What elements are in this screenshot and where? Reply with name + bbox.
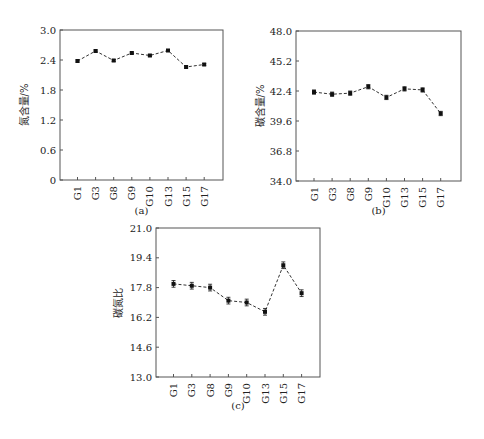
data-point-marker [226,299,230,303]
plot-frame [60,30,223,180]
x-tick-label: G3 [186,383,197,397]
y-tick-label: 45.2 [270,56,292,67]
x-tick-label: G1 [168,383,179,397]
x-tick-label: G8 [345,187,356,201]
x-tick-label: G15 [181,186,192,207]
data-point-marker [148,54,152,58]
data-point-marker [348,91,352,95]
x-tick-label: G9 [223,383,234,397]
y-axis-label: 碳氮比 [112,288,124,318]
data-point-marker [312,90,316,94]
data-point-marker [403,87,407,91]
y-tick-label: 0.6 [40,145,56,156]
data-point-marker [184,65,188,69]
chart-a: 00.61.21.82.43.0氮含量/%G1G3G8G9G10G13G15G1… [18,25,223,217]
chart-caption: (c) [231,400,245,411]
y-tick-label: 0 [50,175,56,186]
x-tick-label: G8 [205,383,216,397]
y-axis-label: 碳含量/% [254,85,266,128]
y-tick-label: 3.0 [40,25,56,36]
data-point-marker [172,282,176,286]
data-point-marker [166,49,170,53]
y-tick-label: 2.4 [40,55,56,66]
y-tick-label: 19.4 [130,252,152,263]
y-tick-label: 42.4 [270,86,292,97]
x-tick-label: G13 [163,186,174,207]
data-point-marker [300,291,304,295]
x-tick-label: G8 [108,186,119,200]
plot-frame [156,228,320,377]
x-tick-label: G17 [296,383,307,404]
plot-frame [296,31,461,181]
x-tick-label: G15 [417,187,428,208]
x-tick-label: G17 [435,187,446,208]
y-tick-label: 17.8 [130,282,152,293]
y-tick-label: 34.0 [270,176,292,187]
data-point-marker [94,49,98,53]
figure: 00.61.21.82.43.0氮含量/%G1G3G8G9G10G13G15G1… [0,0,484,439]
y-tick-label: 36.8 [270,146,292,157]
y-tick-label: 48.0 [270,26,292,37]
data-point-marker [330,92,334,96]
data-point-marker [202,63,206,67]
chart-b: 34.036.839.642.445.248.0碳含量/%G1G3G8G9G10… [254,26,461,217]
y-tick-label: 1.2 [40,115,56,126]
y-tick-label: 14.6 [130,342,152,353]
x-tick-label: G1 [72,186,83,200]
x-tick-label: G3 [327,187,338,201]
data-point-marker [421,88,425,92]
data-point-marker [439,112,443,116]
data-point-marker [263,310,267,314]
chart-caption: (b) [371,205,385,216]
x-tick-label: G1 [309,187,320,201]
x-tick-label: G13 [399,187,410,208]
y-tick-label: 13.0 [130,372,152,383]
data-point-marker [281,263,285,267]
chart-c: 13.014.616.217.819.421.0碳氮比G1G3G8G9G10G1… [112,223,320,412]
y-tick-label: 21.0 [130,223,152,234]
data-point-marker [190,284,194,288]
data-point-marker [76,59,80,63]
x-tick-label: G10 [144,186,155,207]
data-point-marker [366,85,370,89]
x-tick-label: G9 [363,187,374,201]
y-axis-label: 氮含量/% [18,84,30,127]
y-tick-label: 16.2 [130,312,152,323]
x-tick-label: G17 [199,186,210,207]
data-point-marker [384,95,388,99]
data-line [174,265,302,312]
data-point-marker [208,286,212,290]
x-tick-label: G3 [90,186,101,200]
data-point-marker [130,51,134,55]
x-tick-label: G9 [126,186,137,200]
chart-caption: (a) [135,205,149,216]
y-tick-label: 39.6 [270,116,292,127]
data-point-marker [112,59,116,63]
x-tick-label: G13 [260,383,271,404]
x-tick-label: G15 [278,383,289,404]
data-point-marker [245,301,249,305]
y-tick-label: 1.8 [40,85,56,96]
